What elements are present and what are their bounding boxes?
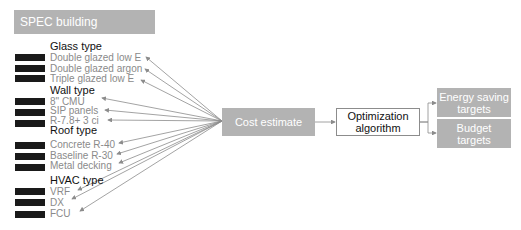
- budget-targets-box: Budget targets: [437, 119, 511, 148]
- color-bar: [15, 142, 45, 149]
- budget-line1: Budget: [457, 122, 492, 134]
- item-concrete-r40: Concrete R-40: [50, 139, 115, 150]
- color-bar: [15, 75, 45, 82]
- color-bar: [15, 153, 45, 160]
- cost-estimate-box: Cost estimate: [222, 108, 315, 136]
- color-bar: [15, 120, 45, 127]
- item-dx: DX: [50, 197, 64, 208]
- energy-line2: targets: [457, 103, 491, 115]
- group-wall-type: Wall type: [50, 84, 95, 96]
- group-roof-type: Roof type: [50, 124, 97, 136]
- energy-line1: Energy saving: [439, 91, 509, 103]
- item-triple-glazed-low-e: Triple glazed low E: [50, 73, 134, 84]
- color-bar: [15, 188, 45, 195]
- optimization-algorithm-box: Optimization algorithm: [336, 108, 420, 136]
- item-double-glazed-low-e: Double glazed low E: [50, 52, 141, 63]
- color-bar: [15, 109, 45, 116]
- color-bar: [15, 98, 45, 105]
- budget-line2: targets: [457, 134, 491, 146]
- spec-components-title: SPEC building components: [14, 10, 155, 34]
- item-fcu: FCU: [50, 208, 71, 219]
- item-metal-decking: Metal decking: [50, 160, 112, 171]
- color-bar: [15, 211, 45, 218]
- item-vrf: VRF: [50, 186, 70, 197]
- color-bar: [15, 199, 45, 206]
- color-bar: [15, 54, 45, 61]
- optimization-line1: Optimization: [347, 110, 408, 122]
- group-hvac-type: HVAC type: [50, 174, 104, 186]
- optimization-line2: algorithm: [355, 122, 400, 134]
- energy-saving-targets-box: Energy saving targets: [437, 88, 511, 117]
- color-bar: [15, 65, 45, 72]
- group-glass-type: Glass type: [50, 40, 102, 52]
- color-bar: [15, 164, 45, 171]
